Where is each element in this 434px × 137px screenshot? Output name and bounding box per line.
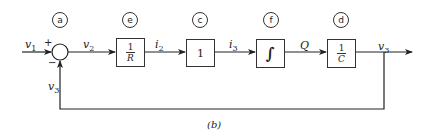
block-c-tag: c: [192, 12, 208, 28]
plus-sign: +: [44, 38, 52, 48]
block-f-tag: f: [263, 12, 279, 28]
minus-sign: −: [48, 58, 56, 68]
block-c-unity: 1: [186, 39, 215, 67]
signal-v1-label: v1: [25, 39, 36, 53]
block-d-numerator: 1: [337, 44, 347, 54]
block-c-value: 1: [197, 47, 204, 60]
signal-q-label: Q: [300, 40, 309, 51]
signal-v2-label: v2: [83, 39, 94, 53]
block-d-tag: d: [333, 12, 349, 28]
block-e-tag: e: [122, 12, 138, 28]
block-e-numerator: 1: [126, 43, 136, 53]
block-e-denominator: R: [127, 53, 134, 63]
signal-v3-output-label: v3: [378, 41, 389, 55]
integral-icon: ∫: [266, 44, 275, 63]
signal-v3-feedback-label: v3: [48, 81, 59, 95]
signal-i2-label: i2: [155, 39, 164, 53]
block-d-denominator: C: [338, 54, 345, 64]
signal-i3-label: i3: [229, 39, 238, 53]
figure-caption: (b): [207, 119, 221, 130]
summing-junction-tag: a: [52, 12, 68, 28]
block-d-one-over-c: 1C: [327, 39, 356, 68]
block-e-one-over-r: 1R: [116, 38, 145, 67]
block-f-integrator: ∫: [256, 39, 285, 68]
